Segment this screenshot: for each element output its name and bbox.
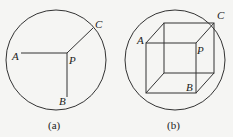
label-b: B xyxy=(59,95,66,107)
label-a: A xyxy=(11,50,19,62)
circle-b xyxy=(125,10,225,110)
cube-edge-2 xyxy=(196,23,214,43)
label-c: C xyxy=(217,9,225,21)
caption-b: (b) xyxy=(167,119,180,132)
cube-edge-3 xyxy=(146,73,164,93)
diagram-canvas: A P B C (a) A P B C (b) xyxy=(0,0,233,137)
cube-back-face xyxy=(164,23,214,73)
circle-a xyxy=(6,10,106,110)
caption-a: (a) xyxy=(48,119,61,132)
label-p: P xyxy=(68,54,76,66)
figure-a: A P B C (a) xyxy=(6,10,106,132)
label-p: P xyxy=(196,44,204,56)
segment-pc xyxy=(67,28,93,53)
label-c: C xyxy=(95,18,103,30)
label-a: A xyxy=(136,34,144,46)
figure-b: A P B C (b) xyxy=(125,9,225,132)
cube-edge-1 xyxy=(146,23,164,43)
cube-edge-4 xyxy=(196,73,214,93)
label-b: B xyxy=(186,81,193,93)
